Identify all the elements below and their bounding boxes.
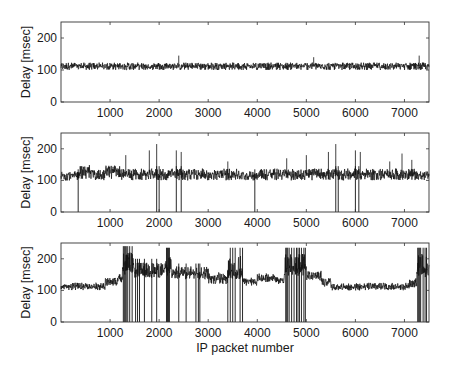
y-tick-label: 0: [50, 315, 57, 329]
x-tick-label: 6000: [342, 326, 369, 340]
delay-trace: [61, 165, 429, 180]
x-tick-label: 3000: [195, 106, 222, 120]
x-tick-label: 1000: [97, 216, 124, 230]
bottom-panel: 10002000300040005000600070000100200Delay…: [19, 243, 429, 340]
axes-frame: [61, 22, 429, 102]
x-tick-label: 5000: [293, 106, 320, 120]
x-tick-label: 2000: [146, 106, 173, 120]
x-tick-label: 2000: [146, 216, 173, 230]
x-tick-label: 4000: [244, 106, 271, 120]
y-tick-label: 200: [37, 142, 57, 156]
y-tick-label: 0: [50, 95, 57, 109]
y-tick-label: 100: [37, 173, 57, 187]
y-axis-label: Delay [msec]: [19, 26, 33, 98]
x-tick-label: 7000: [391, 216, 418, 230]
y-tick-label: 0: [50, 205, 57, 219]
x-tick-label: 4000: [244, 326, 271, 340]
x-tick-label: 7000: [391, 326, 418, 340]
y-axis-label: Delay [msec]: [19, 246, 33, 318]
x-tick-label: 3000: [195, 216, 222, 230]
x-tick-label: 1000: [97, 326, 124, 340]
x-axis-label: IP packet number: [196, 341, 294, 355]
x-tick-label: 4000: [244, 216, 271, 230]
x-tick-label: 1000: [97, 106, 124, 120]
x-tick-label: 5000: [293, 326, 320, 340]
x-tick-label: 6000: [342, 106, 369, 120]
y-axis-label: Delay [msec]: [19, 136, 33, 208]
top-panel: 10002000300040005000600070000100200Delay…: [19, 22, 429, 120]
x-tick-label: 5000: [293, 216, 320, 230]
figure: 10002000300040005000600070000100200Delay…: [0, 0, 452, 370]
y-tick-label: 200: [37, 252, 57, 266]
y-tick-label: 100: [37, 283, 57, 297]
y-tick-label: 100: [37, 63, 57, 77]
y-tick-label: 200: [37, 31, 57, 45]
x-tick-label: 7000: [391, 106, 418, 120]
middle-panel: 10002000300040005000600070000100200Delay…: [19, 133, 429, 230]
delay-trace: [61, 63, 429, 70]
x-tick-label: 3000: [195, 326, 222, 340]
x-tick-label: 6000: [342, 216, 369, 230]
x-tick-label: 2000: [146, 326, 173, 340]
delay-trace: [61, 253, 429, 291]
